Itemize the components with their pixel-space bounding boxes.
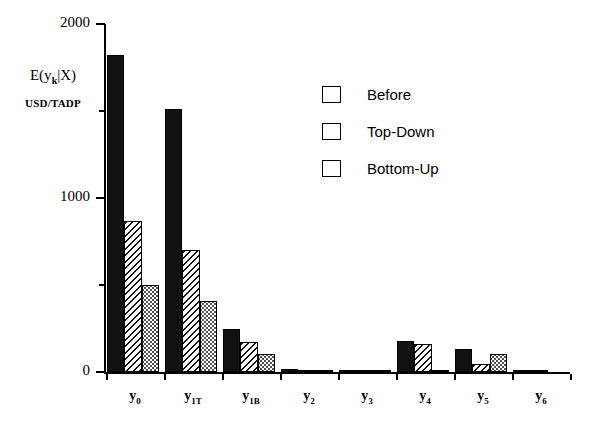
x-tick bbox=[338, 374, 340, 380]
legend-item-bottom-up: Bottom-Up bbox=[322, 150, 439, 187]
bar bbox=[339, 370, 357, 373]
bar bbox=[513, 370, 531, 373]
bar bbox=[281, 369, 299, 372]
x-axis-label-subscript: 1B bbox=[249, 396, 260, 406]
bar bbox=[432, 370, 450, 373]
x-axis-label: y2 bbox=[279, 388, 339, 409]
x-tick bbox=[106, 374, 108, 380]
x-axis-label-subscript: 5 bbox=[484, 396, 489, 406]
y-tick-major bbox=[96, 23, 105, 25]
y-tick-minor bbox=[99, 284, 105, 286]
bar bbox=[165, 109, 183, 372]
x-axis-label: y1T bbox=[163, 388, 223, 409]
bar bbox=[258, 354, 276, 372]
y-tick-label: 0 bbox=[0, 363, 90, 378]
bar bbox=[397, 341, 415, 372]
bar bbox=[107, 55, 125, 372]
y-axis-units-label: USD/TADP bbox=[8, 95, 98, 111]
x-tick bbox=[280, 374, 282, 380]
legend-swatch-top-down-icon bbox=[322, 123, 341, 140]
bar bbox=[414, 344, 432, 372]
x-axis-label-subscript: 0 bbox=[136, 396, 141, 406]
bar-group bbox=[455, 24, 508, 372]
legend-label-top-down: Top-Down bbox=[367, 124, 435, 139]
bar-group bbox=[223, 24, 276, 372]
legend-item-before: Before bbox=[322, 76, 439, 113]
bar bbox=[124, 221, 142, 372]
x-axis-label-subscript: 1T bbox=[191, 396, 202, 406]
y-tick-label: 2000 bbox=[0, 15, 90, 30]
legend-label-bottom-up: Bottom-Up bbox=[367, 161, 439, 176]
bar bbox=[298, 370, 316, 373]
y-tick-major bbox=[96, 197, 105, 199]
bar-group bbox=[107, 24, 160, 372]
x-axis-label-subscript: 4 bbox=[426, 396, 431, 406]
y-axis-title-expression: E(yk|X) bbox=[8, 66, 98, 90]
bar bbox=[530, 370, 548, 373]
bar bbox=[374, 370, 392, 373]
y-axis-title-prefix: E(y bbox=[30, 67, 52, 83]
x-tick bbox=[222, 374, 224, 380]
y-axis-title: E(yk|X) USD/TADP bbox=[8, 66, 98, 111]
x-tick bbox=[512, 374, 514, 380]
x-tick bbox=[570, 374, 572, 380]
bar bbox=[356, 370, 374, 373]
legend-label-before: Before bbox=[367, 87, 411, 102]
x-axis-label-subscript: 6 bbox=[542, 396, 547, 406]
bar-group bbox=[513, 24, 566, 372]
x-axis-label: y3 bbox=[337, 388, 397, 409]
x-tick bbox=[164, 374, 166, 380]
bar-chart: E(yk|X) USD/TADP 010002000 y0y1Ty1By2y3y… bbox=[0, 0, 594, 428]
x-axis-label-subscript: 3 bbox=[368, 396, 373, 406]
x-axis-label: y5 bbox=[453, 388, 513, 409]
legend: Before Top-Down Bottom-Up bbox=[322, 76, 439, 187]
bar bbox=[455, 349, 473, 372]
bar bbox=[490, 354, 508, 372]
x-axis-label: y4 bbox=[395, 388, 455, 409]
bar bbox=[316, 370, 334, 373]
bar-group bbox=[165, 24, 218, 372]
x-axis-label-subscript: 2 bbox=[310, 396, 315, 406]
x-axis-label: y1B bbox=[221, 388, 281, 409]
y-tick-minor bbox=[99, 110, 105, 112]
y-tick-label: 1000 bbox=[0, 189, 90, 204]
x-tick bbox=[396, 374, 398, 380]
x-tick bbox=[454, 374, 456, 380]
bar bbox=[182, 250, 200, 372]
x-axis-label: y6 bbox=[511, 388, 571, 409]
bar bbox=[200, 301, 218, 372]
bar bbox=[142, 285, 160, 372]
legend-swatch-bottom-up-icon bbox=[322, 160, 341, 177]
x-axis-line bbox=[104, 372, 570, 374]
bar bbox=[223, 329, 241, 373]
y-axis-title-suffix: |X) bbox=[57, 67, 76, 83]
x-axis-label: y0 bbox=[105, 388, 165, 409]
legend-item-top-down: Top-Down bbox=[322, 113, 439, 150]
y-tick-major bbox=[96, 371, 105, 373]
bar bbox=[240, 342, 258, 372]
legend-swatch-before-icon bbox=[322, 86, 341, 103]
bar bbox=[472, 364, 490, 372]
